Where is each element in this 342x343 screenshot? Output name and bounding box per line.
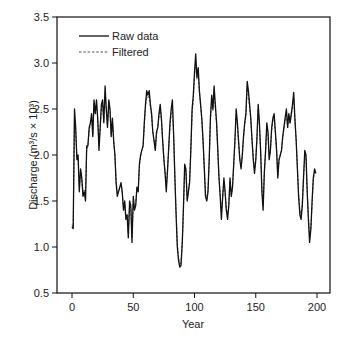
- legend: Raw data Filtered: [79, 30, 159, 58]
- legend-label-filtered: Filtered: [112, 46, 149, 58]
- y-tick-label: 3.5: [34, 11, 49, 23]
- x-tick-label: 0: [69, 301, 75, 313]
- x-tick-label: 150: [247, 301, 265, 313]
- discharge-line-chart: 0.51.01.52.02.53.03.5 050100150200 Year …: [0, 0, 342, 343]
- plot-frame: [57, 17, 330, 293]
- legend-label-raw: Raw data: [112, 30, 159, 42]
- y-axis-title: Discharge (m³/s × 10³): [27, 100, 39, 210]
- plot-area-border: [57, 17, 330, 293]
- x-axis: 050100150200: [69, 293, 326, 313]
- series-layer: [72, 54, 316, 267]
- x-tick-label: 50: [127, 301, 139, 313]
- y-tick-label: 3.0: [34, 57, 49, 69]
- y-tick-label: 1.0: [34, 241, 49, 253]
- x-tick-label: 200: [308, 301, 326, 313]
- y-tick-label: 0.5: [34, 287, 49, 299]
- x-tick-label: 100: [185, 301, 203, 313]
- x-axis-title: Year: [182, 318, 205, 330]
- series-raw-line: [72, 54, 316, 267]
